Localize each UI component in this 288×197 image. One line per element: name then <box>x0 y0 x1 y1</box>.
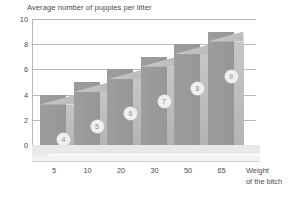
chart-floor <box>32 145 260 162</box>
x-axis-label-line-2: of the bitch <box>246 177 282 188</box>
data-point-marker-65: 9 <box>225 70 238 83</box>
y-tick-label-6: 6 <box>24 65 28 74</box>
bar-series: 456789 <box>32 19 256 145</box>
y-tick-label-4: 4 <box>24 90 28 99</box>
data-point-marker-5: 4 <box>57 133 70 146</box>
y-tick-label-10: 10 <box>20 15 28 24</box>
bar-10[interactable] <box>74 82 100 145</box>
bar-65[interactable] <box>208 32 234 145</box>
x-axis-label: Weight of the bitch <box>246 166 282 187</box>
bar-side-face <box>234 42 244 145</box>
x-tick-label-5: 5 <box>52 166 56 175</box>
x-tick-label-30: 30 <box>150 166 158 175</box>
floor-edge <box>32 161 260 162</box>
chart-title: Average number of puppies per litter <box>27 3 152 12</box>
y-tick-label-2: 2 <box>24 115 28 124</box>
x-tick-label-65: 65 <box>217 166 225 175</box>
data-point-marker-30: 7 <box>158 95 171 108</box>
bar-front-face <box>208 32 234 145</box>
x-tick-label-20: 20 <box>117 166 125 175</box>
x-tick-label-10: 10 <box>83 166 91 175</box>
y-tick-label-0: 0 <box>24 141 28 150</box>
bar-chart: Average number of puppies per litter 024… <box>0 0 288 197</box>
data-point-marker-10: 5 <box>91 120 104 133</box>
y-tick-label-8: 8 <box>24 40 28 49</box>
x-tick-label-50: 50 <box>184 166 192 175</box>
x-axis-label-line-1: Weight <box>246 166 282 177</box>
